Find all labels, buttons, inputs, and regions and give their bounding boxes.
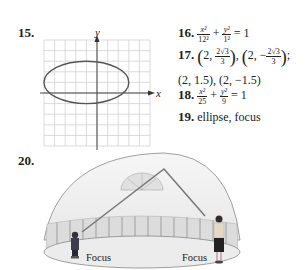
- problem-18-number: 18.: [178, 87, 194, 102]
- focus-label-right: Focus: [182, 251, 207, 265]
- fraction: y²9: [220, 87, 228, 106]
- problem-17-line2: (2, 1.5), (2, −1.5): [178, 73, 261, 87]
- y-axis-label: y: [95, 25, 100, 39]
- fraction: x²12²: [197, 25, 209, 44]
- problem-16-number: 16.: [178, 25, 194, 40]
- problem-16: 16. x²12² + y²1² = 1: [178, 25, 250, 44]
- problem-18: 18. x²25 + y²9 = 1: [178, 87, 247, 106]
- x-axis-label: x: [156, 86, 161, 100]
- fraction: y²1²: [222, 25, 230, 44]
- problem-17-number: 17.: [178, 47, 194, 62]
- fraction: x²25: [197, 87, 207, 106]
- problem-15-number: 15.: [18, 25, 34, 41]
- problem-19-number: 19.: [178, 109, 194, 124]
- ellipse-graph: [40, 30, 160, 150]
- whispering-gallery-illustration: [0, 140, 307, 270]
- focus-label-left: Focus: [86, 251, 111, 265]
- problem-19: 19. ellipse, focus: [178, 110, 261, 124]
- boy-figure: [71, 232, 79, 259]
- problem-17: 17. (2, 2√33), (2, −2√33);: [178, 47, 290, 66]
